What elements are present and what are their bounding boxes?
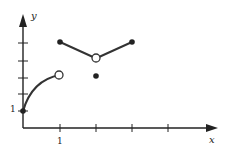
axes	[19, 14, 218, 132]
curve-segment	[23, 75, 60, 111]
line-segment-left	[60, 42, 93, 57]
filled-point	[57, 39, 63, 45]
piecewise-function-graph	[0, 0, 228, 149]
y-axis-arrow-icon	[19, 14, 27, 27]
x-tick-label-1: 1	[57, 136, 63, 146]
open-point	[55, 71, 63, 79]
line-segment-right	[99, 42, 132, 57]
y-tick-label-1: 1	[10, 104, 16, 114]
y-axis-label: y	[31, 10, 37, 21]
isolated-filled-point	[93, 73, 99, 79]
x-axis-arrow-icon	[206, 124, 218, 132]
filled-point	[20, 108, 26, 114]
open-point	[92, 54, 100, 62]
filled-point	[129, 39, 135, 45]
x-axis-label: x	[209, 134, 215, 145]
